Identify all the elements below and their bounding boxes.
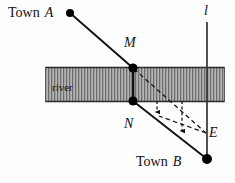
label-line-l: l [204, 4, 208, 18]
label-river: river [52, 82, 73, 93]
point-a-dot [66, 9, 74, 17]
point-m-dot [128, 63, 137, 72]
point-n-dot [128, 96, 137, 105]
label-point-e: E [209, 126, 218, 140]
label-town-a: TownA [8, 6, 53, 20]
point-b-dot [202, 154, 212, 164]
label-point-a: A [40, 5, 54, 20]
label-point-b: B [168, 154, 182, 169]
label-town-b-text: Town [136, 154, 168, 169]
river-geometry-figure: TownA TownB M N E l river [0, 0, 235, 183]
diagram-canvas [0, 0, 235, 183]
label-point-n: N [124, 117, 133, 131]
label-point-m: M [124, 36, 136, 50]
label-town-b: TownB [136, 155, 181, 169]
label-town-a-text: Town [8, 5, 40, 20]
